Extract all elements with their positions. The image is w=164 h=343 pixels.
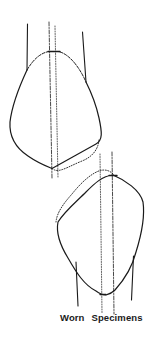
caption-word-worn: Worn [60,312,85,323]
bottom-tooth-secondary-axis [100,154,102,313]
top-tooth-center-axis [49,22,52,178]
caption-word-specimens: Specimens [92,312,143,323]
figure-caption: WornSpecimens [60,312,143,323]
bottom-tooth [56,152,144,314]
top-tooth-secondary-axis [55,26,58,178]
top-tooth-crown-top-arc [27,52,86,83]
top-tooth-crown-outline [10,70,101,169]
top-tooth-right-root [83,32,87,82]
bottom-tooth-crown-outline [57,175,143,295]
bottom-tooth-center-axis [112,152,114,314]
bottom-tooth-left-root [76,262,78,306]
top-tooth [10,22,101,178]
top-tooth-left-root [27,24,28,70]
worn-specimens-diagram [0,0,164,343]
